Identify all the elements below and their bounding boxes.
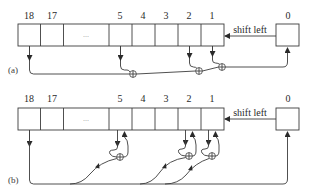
register-outline	[18, 24, 224, 46]
cell-label-17: 17	[47, 93, 57, 104]
input-cell-0	[276, 24, 299, 46]
cell-label-18: 18	[24, 10, 34, 21]
cell-label-2: 2	[187, 10, 192, 21]
cell-label-17: 17	[47, 10, 57, 21]
diagram-canvas: 18 17 5 4 3 2 1 0 ... shift left	[0, 0, 319, 196]
panel-b: 18 17 5 4 3 2 1 0 ... shift left	[8, 93, 299, 185]
cell-label-2: 2	[187, 93, 192, 104]
ellipsis: ...	[83, 114, 89, 123]
cell-label-4: 4	[141, 93, 146, 104]
cell-label-0: 0	[286, 10, 291, 21]
feedback-network-a	[30, 46, 288, 77]
shift-register: ...	[18, 24, 224, 46]
cell-label-1: 1	[210, 10, 215, 21]
input-cell-0	[276, 108, 299, 130]
cell-label-3: 3	[164, 93, 169, 104]
caption-a: (a)	[8, 65, 18, 75]
cell-label-0: 0	[286, 93, 291, 104]
panel-a: 18 17 5 4 3 2 1 0 ... shift left	[8, 10, 299, 77]
shift-left-label: shift left	[233, 24, 267, 35]
register-outline	[18, 108, 224, 130]
cell-label-5: 5	[118, 10, 123, 21]
shift-left-label: shift left	[233, 107, 267, 118]
cell-label-3: 3	[164, 10, 169, 21]
ellipsis: ...	[83, 30, 89, 39]
shift-register: ...	[18, 108, 224, 130]
cell-label-4: 4	[141, 10, 146, 21]
feedback-network-b	[30, 130, 288, 184]
cell-label-5: 5	[118, 93, 123, 104]
caption-b: (b)	[8, 175, 19, 185]
cell-label-1: 1	[210, 93, 215, 104]
cell-label-18: 18	[24, 93, 34, 104]
